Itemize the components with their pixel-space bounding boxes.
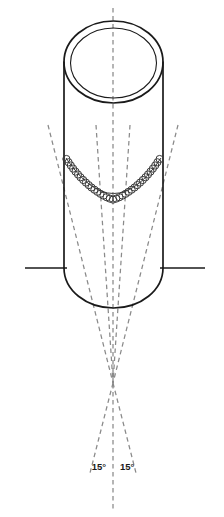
right-construction-line-upper: [113, 125, 178, 383]
angle-label-left: 15°: [92, 461, 107, 472]
right-inner-construction-line: [113, 125, 130, 383]
left-construction-line-lower: [90, 383, 113, 473]
construction-lines-group: [48, 8, 178, 512]
top-inner-ellipse: [71, 28, 157, 98]
right-construction-line-lower: [113, 383, 136, 473]
technical-drawing: Cylindrical vessel elevation with circum…: [0, 0, 224, 517]
angle-label-right: 15°: [120, 461, 135, 472]
left-inner-construction-line: [96, 125, 113, 383]
diagram-canvas: Cylindrical vessel elevation with circum…: [0, 0, 224, 517]
left-construction-line-upper: [48, 125, 113, 383]
